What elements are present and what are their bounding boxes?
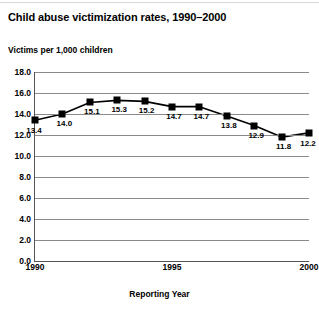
data-point-label: 11.8 [276, 143, 291, 151]
x-axis-title: Reporting Year [0, 289, 319, 299]
data-point-marker [114, 97, 121, 104]
y-axis-tick-label: 4.0 [19, 215, 31, 224]
data-point-marker [251, 122, 258, 129]
x-axis-tick-label: 1995 [163, 263, 182, 272]
data-point-label: 13.4 [26, 127, 42, 135]
y-axis-tick-label: 8.0 [19, 173, 31, 182]
plot-area: 18.016.014.012.010.08.06.04.02.00.019901… [34, 72, 309, 262]
gridline [35, 93, 309, 94]
gridline [35, 72, 309, 73]
y-axis-tick-label: 6.0 [19, 194, 31, 203]
y-axis-tick-label: 18.0 [14, 68, 31, 77]
chart-title: Child abuse victimization rates, 1990–20… [8, 11, 226, 23]
data-point-marker [196, 103, 203, 110]
header-divider [0, 2, 319, 3]
chart-figure: Child abuse victimization rates, 1990–20… [0, 0, 319, 310]
gridline [35, 135, 309, 136]
x-axis-tick-label: 1990 [26, 263, 45, 272]
y-axis-tick-label: 2.0 [19, 236, 31, 245]
data-point-marker [169, 103, 176, 110]
y-axis-tick-label: 14.0 [14, 110, 31, 119]
data-point-marker [223, 113, 230, 120]
data-point-marker [306, 129, 313, 136]
data-point-label: 15.2 [139, 107, 155, 115]
data-point-label: 14.7 [166, 113, 182, 121]
gridline [35, 156, 309, 157]
x-axis-tick-label: 2000 [300, 263, 319, 272]
data-point-marker [278, 134, 285, 141]
data-point-marker [141, 98, 148, 105]
chart-subtitle: Victims per 1,000 children [8, 45, 113, 55]
data-point-label: 13.8 [221, 122, 237, 130]
data-series-line [35, 72, 309, 261]
data-point-label: 15.3 [111, 106, 127, 114]
gridline [35, 198, 309, 199]
data-point-label: 14.7 [194, 113, 210, 121]
gridline [35, 219, 309, 220]
gridline [35, 240, 309, 241]
y-axis-tick-label: 16.0 [14, 89, 31, 98]
data-point-marker [59, 111, 66, 118]
gridline [35, 177, 309, 178]
data-point-label: 14.0 [57, 120, 73, 128]
data-point-label: 12.9 [248, 132, 264, 140]
data-point-label: 15.1 [84, 108, 100, 116]
data-point-label: 12.2 [300, 140, 316, 148]
data-point-marker [86, 99, 93, 106]
y-axis-tick-label: 10.0 [14, 152, 31, 161]
data-point-marker [32, 117, 39, 124]
